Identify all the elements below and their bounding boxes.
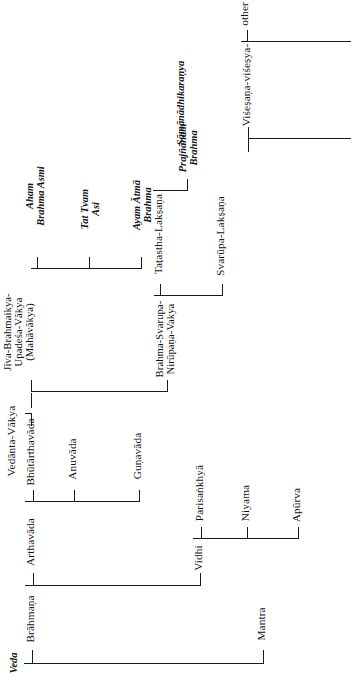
edge-bhutarthavada-to-vedanta-dash2 xyxy=(31,393,32,408)
edge-veda-to-brahmana xyxy=(32,650,33,664)
node-vidhi: Vidhi xyxy=(193,545,205,571)
node-gunavada: Guṇavāda xyxy=(132,433,144,480)
edge-vidhi-to-parisankhya xyxy=(201,527,202,539)
edge-tatastha-to-prajnanam xyxy=(187,179,188,191)
edge-samanadhikaranya-entry xyxy=(248,139,249,152)
edge-brahmana-stub xyxy=(25,585,33,586)
node-veda: Veda xyxy=(8,653,19,674)
edge-bhutarthavada-to-vedanta-dash1 xyxy=(31,413,32,426)
jiva-line-3: (Mahāvākya) xyxy=(24,303,35,361)
edge-vedanta-to-jiva xyxy=(31,380,32,392)
node-bhutarthavada: Bhūtārthavāda xyxy=(25,418,37,485)
node-brahma-svarupa: Brahma-Svarupa-Nirūpaṇa-Vakya xyxy=(154,301,176,378)
node-brahmana: Brāhmaṇa xyxy=(25,595,37,642)
edge-vidhi-to-apurva xyxy=(298,527,299,539)
prajnanam-line-2: Brahma xyxy=(188,130,199,165)
edge-sam-to-visesana xyxy=(248,127,249,139)
edge-visesana-to-other xyxy=(247,30,248,42)
ayam-line-1: Ayam Ātmā xyxy=(131,180,142,230)
edge-vidhi-stub xyxy=(193,538,201,539)
edge-bs-to-tatastha xyxy=(160,284,161,296)
edge-arthavada-spine xyxy=(33,501,140,502)
vedanta-classification-tree: Veda Mantra Brāhmaṇa Arthavāda Vidhi Par… xyxy=(0,0,351,699)
ayam-line-2: Brahma xyxy=(142,187,153,222)
edge-bs-to-svarupa-laksana xyxy=(222,284,223,296)
edge-brahmana-spine xyxy=(33,585,201,586)
tat-tvam-line-1: Tat Tvam xyxy=(79,189,90,229)
brahma-svarupa-line-1: Brahma-Svarupa- xyxy=(154,301,165,378)
edge-brahma-svarupa-spine xyxy=(160,295,223,296)
edge-jiva-to-ayam-atma xyxy=(141,257,142,269)
edge-samanadhikaranya-spine xyxy=(248,138,351,139)
node-arthavada: Arthavāda xyxy=(25,518,37,566)
node-visesana-visesya: Viśeṣaṇa-viśeṣya- xyxy=(241,44,253,127)
node-niyama: Niyama xyxy=(240,485,252,521)
edge-visesana-spine xyxy=(247,41,351,42)
edge-tatastha-spine xyxy=(159,190,188,191)
brahma-svarupa-line-2: Nirūpaṇa-Vakya xyxy=(165,304,176,375)
edge-arthavada-to-bhutarthavada xyxy=(33,490,34,502)
edge-brahmana-to-vidhi xyxy=(200,573,201,586)
edge-brahmana-to-arthavada xyxy=(33,573,34,586)
edge-vidhi-spine xyxy=(201,538,299,539)
edge-jiva-to-aham xyxy=(37,257,38,269)
node-apurva: Apūrva xyxy=(291,488,303,522)
edge-arthavada-stub xyxy=(25,501,33,502)
tat-tvam-line-2: Asi xyxy=(90,202,101,216)
edge-vedanta-to-brahma-svarupa xyxy=(167,380,168,392)
edge-arthavada-to-anuvada xyxy=(74,490,75,502)
node-jiva-brahmaikya: Jīva-Brahmaikya-Upadeśa-Vākya(Mahāvākya) xyxy=(2,293,36,371)
node-aham-brahma-asmi: AhamBrahma Asmi xyxy=(24,166,46,225)
edge-veda-to-mantra xyxy=(263,650,264,664)
aham-line-1: Aham xyxy=(24,183,35,209)
jiva-line-1: Jīva-Brahmaikya- xyxy=(2,293,13,371)
node-parisankhya: Parisaṅkhyā xyxy=(194,465,206,521)
node-samanadhikaranya: Sāmānādhikaraṇya xyxy=(175,61,186,145)
aham-line-2: Brahma Asmi xyxy=(35,166,46,225)
edge-veda-spine xyxy=(32,663,264,664)
edge-jiva-to-tat-tvam xyxy=(89,257,90,269)
node-mantra: Mantra xyxy=(256,607,268,640)
jiva-line-2: Upadeśa-Vākya xyxy=(13,298,24,367)
node-tatastha-laksana: Taṭastha-Lakṣaṇa xyxy=(153,194,165,274)
node-vedanta-vakya: Vedānta-Vākya xyxy=(6,406,18,477)
edge-vedanta-spine xyxy=(31,391,168,392)
edge-vidhi-to-niyama xyxy=(247,527,248,539)
edge-veda-stub xyxy=(24,663,32,664)
node-tat-tvam-asi: Tat TvamAsi xyxy=(79,189,101,229)
node-svarupa-laksana: Svarūpa-Lakṣaṇa xyxy=(215,196,227,276)
node-anuvada: Anuvāda xyxy=(67,438,79,479)
edge-arthavada-to-gunavada xyxy=(139,490,140,502)
node-other: other xyxy=(239,2,251,26)
node-ayam-atma-brahma: Ayam ĀtmāBrahma xyxy=(131,180,153,230)
